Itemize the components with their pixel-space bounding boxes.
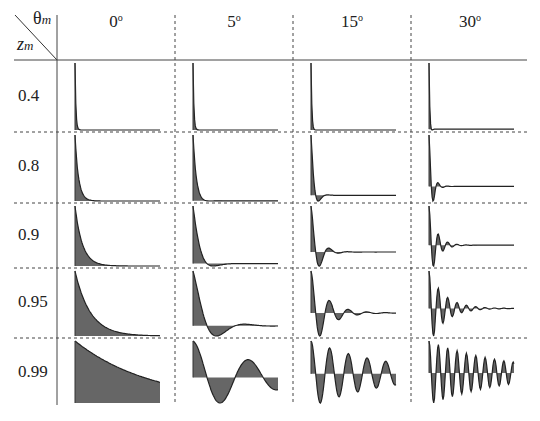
row-label-0.4: 0.4 <box>18 86 58 106</box>
row-label-0.8: 0.8 <box>18 156 58 176</box>
cell-z0.8-theta0 <box>75 135 160 201</box>
cell-z0.8-theta15 <box>311 135 396 201</box>
cell-z0.9-theta0 <box>75 206 160 266</box>
cell-z0.4-theta0 <box>75 63 160 130</box>
figure-grid <box>0 0 540 421</box>
cells <box>75 63 514 403</box>
cell-z0.4-theta5 <box>193 63 278 130</box>
cell-z0.95-theta5 <box>193 271 278 336</box>
cell-z0.95-theta0 <box>75 271 160 336</box>
cell-z0.99-theta15 <box>311 341 396 403</box>
col-header-30: 30o <box>411 12 529 32</box>
row-label-0.99: 0.99 <box>18 362 58 382</box>
col-header-5: 5o <box>175 12 293 32</box>
col-header-0: 0o <box>57 12 175 32</box>
cell-z0.9-theta15 <box>311 206 396 266</box>
col-header-15: 15o <box>293 12 411 32</box>
cell-z0.99-theta5 <box>193 341 278 403</box>
cell-z0.9-theta5 <box>193 206 278 266</box>
cell-z0.4-theta15 <box>311 63 396 130</box>
cell-z0.95-theta15 <box>311 271 396 336</box>
cell-z0.99-theta0 <box>75 341 160 403</box>
theta-m-header: θm <box>33 8 51 29</box>
cell-z0.9-theta30 <box>429 206 514 266</box>
cell-z0.4-theta30 <box>429 63 514 130</box>
row-label-0.95: 0.95 <box>18 292 58 312</box>
cell-z0.95-theta30 <box>429 271 514 336</box>
cell-z0.8-theta30 <box>429 135 514 201</box>
row-label-0.9: 0.9 <box>18 225 58 245</box>
z-m-header: zm <box>17 34 33 55</box>
cell-z0.8-theta5 <box>193 135 278 201</box>
grid-dashes <box>14 15 527 405</box>
cell-z0.99-theta30 <box>429 341 514 403</box>
